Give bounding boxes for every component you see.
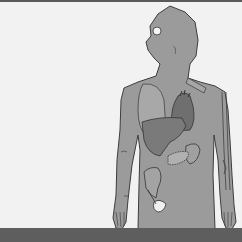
bottom-border [0,228,242,242]
anatomy-illustration [0,0,242,242]
eye-icon [153,27,161,35]
